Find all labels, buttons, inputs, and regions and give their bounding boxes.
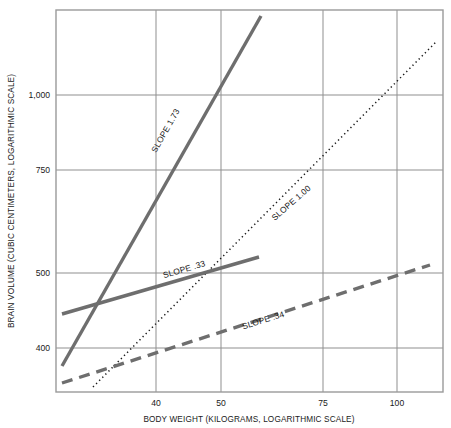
x-tick-label-75: 75 [318,398,328,408]
x-tick-label-40: 40 [151,398,161,408]
chart-canvas: 1,000 750 500 400 40 50 75 100 BODY WEIG… [0,0,451,428]
x-tick-label-50: 50 [216,398,226,408]
x-axis-title: BODY WEIGHT (KILOGRAMS, LOGARITHMIC SCAL… [143,415,354,424]
y-tick-label-500: 500 [36,268,51,278]
plot-area-background [56,10,443,392]
y-tick-label-750: 750 [36,165,51,175]
brain-volume-body-weight-chart: 1,000 750 500 400 40 50 75 100 BODY WEIG… [0,0,451,428]
x-tick-label-100: 100 [390,398,405,408]
y-tick-label-400: 400 [36,343,51,353]
y-axis-title: BRAIN VOLUME (CUBIC CENTIMETERS, LOGARIT… [7,74,16,328]
x-tick-labels: 40 50 75 100 [151,398,404,408]
y-tick-label-1000: 1,000 [28,90,50,100]
y-tick-labels: 1,000 750 500 400 [28,90,50,353]
